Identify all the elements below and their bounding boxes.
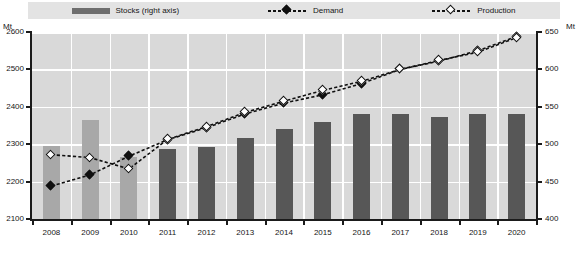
x-tick: [420, 221, 422, 225]
line-series-layer: [32, 32, 536, 219]
legend-item-demand: Demand: [268, 2, 343, 19]
left-tick-label: 2300: [0, 139, 24, 148]
right-axis-line: [536, 31, 538, 220]
right-tick: [538, 106, 542, 108]
right-tick: [538, 68, 542, 70]
x-tick-label-2020: 2020: [500, 228, 534, 237]
x-tick: [110, 221, 112, 225]
x-tick: [187, 221, 189, 225]
x-tick: [536, 221, 538, 225]
x-tick: [226, 221, 228, 225]
right-tick-label: 600: [545, 64, 571, 73]
right-tick-label: 400: [545, 214, 571, 223]
right-tick-label: 450: [545, 177, 571, 186]
x-tick-label-2009: 2009: [73, 228, 107, 237]
x-tick-label-2018: 2018: [422, 228, 456, 237]
left-axis-line: [30, 31, 32, 220]
bottom-axis-line: [30, 219, 538, 221]
x-tick: [381, 221, 383, 225]
x-tick: [459, 221, 461, 225]
right-tick: [538, 218, 542, 220]
x-tick: [303, 221, 305, 225]
x-tick-label-2015: 2015: [306, 228, 340, 237]
right-tick-label: 550: [545, 102, 571, 111]
x-tick-label-2019: 2019: [461, 228, 495, 237]
left-tick-label: 2400: [0, 102, 24, 111]
legend-label-production: Production: [477, 7, 515, 15]
x-tick-label-2010: 2010: [112, 228, 146, 237]
left-tick: [26, 31, 30, 33]
filled-diamond-icon: [268, 6, 308, 15]
right-tick: [538, 143, 542, 145]
right-tick: [538, 181, 542, 183]
left-tick: [26, 68, 30, 70]
plot-area: [32, 32, 536, 219]
x-tick-label-2016: 2016: [345, 228, 379, 237]
x-tick-label-2008: 2008: [34, 228, 68, 237]
x-tick: [342, 221, 344, 225]
x-tick: [71, 221, 73, 225]
left-tick: [26, 106, 30, 108]
left-tick: [26, 143, 30, 145]
legend-label-stocks: Stocks (right axis): [115, 7, 179, 15]
left-tick-label: 2100: [0, 214, 24, 223]
x-tick: [148, 221, 150, 225]
x-tick-label-2011: 2011: [151, 228, 185, 237]
right-tick: [538, 31, 542, 33]
left-tick: [26, 218, 30, 220]
x-tick: [265, 221, 267, 225]
left-tick: [26, 181, 30, 183]
chart-container: Stocks (right axis) Demand Production Mt…: [0, 0, 588, 269]
left-tick-label: 2600: [0, 27, 24, 36]
x-tick: [32, 221, 34, 225]
legend-item-production: Production: [432, 2, 515, 19]
x-tick-label-2013: 2013: [228, 228, 262, 237]
chart-legend: Stocks (right axis) Demand Production: [28, 2, 560, 19]
left-tick-label: 2500: [0, 64, 24, 73]
x-tick-label-2012: 2012: [190, 228, 224, 237]
open-diamond-icon: [432, 6, 472, 15]
x-tick: [497, 221, 499, 225]
legend-label-demand: Demand: [313, 7, 343, 15]
right-tick-label: 500: [545, 139, 571, 148]
bar-swatch-icon: [72, 8, 110, 14]
x-tick-label-2014: 2014: [267, 228, 301, 237]
left-tick-label: 2200: [0, 177, 24, 186]
legend-item-stocks: Stocks (right axis): [72, 2, 179, 19]
x-tick-label-2017: 2017: [383, 228, 417, 237]
right-tick-label: 650: [545, 27, 571, 36]
